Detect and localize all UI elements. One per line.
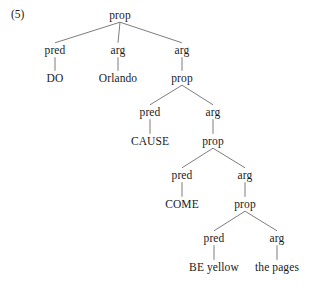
- tree-node-arg: arg: [111, 45, 126, 57]
- tree-edge: [182, 148, 213, 168]
- tree-node-prop: prop: [171, 73, 192, 85]
- tree-edge: [182, 85, 213, 105]
- tree-edge: [245, 211, 277, 231]
- tree-node-come: COME: [165, 199, 199, 211]
- tree-node-be-yellow: BE yellow: [189, 262, 239, 274]
- tree-node-pred: pred: [140, 107, 161, 119]
- tree-node-pred: pred: [45, 45, 66, 57]
- tree-edge: [120, 22, 182, 43]
- tree-node-prop: prop: [109, 10, 130, 22]
- tree-node-arg: arg: [270, 233, 285, 245]
- tree-edge: [118, 22, 120, 43]
- tree-edge: [214, 211, 245, 231]
- tree-edge: [55, 22, 120, 43]
- syntax-tree-figure: (5) proppredargargDOOrlandoproppredargCA…: [0, 0, 315, 292]
- tree-edge: [150, 85, 182, 105]
- tree-node-arg: arg: [238, 170, 253, 182]
- tree-edge: [213, 148, 245, 168]
- tree-node-arg: arg: [175, 45, 190, 57]
- tree-node-cause: CAUSE: [131, 136, 169, 148]
- tree-node-the-pages: the pages: [255, 262, 299, 274]
- tree-node-pred: pred: [172, 170, 193, 182]
- tree-node-prop: prop: [202, 136, 223, 148]
- tree-node-do: DO: [47, 73, 64, 85]
- tree-node-arg: arg: [206, 107, 221, 119]
- tree-node-orlando: Orlando: [99, 73, 137, 85]
- tree-node-prop: prop: [234, 199, 255, 211]
- tree-node-pred: pred: [204, 233, 225, 245]
